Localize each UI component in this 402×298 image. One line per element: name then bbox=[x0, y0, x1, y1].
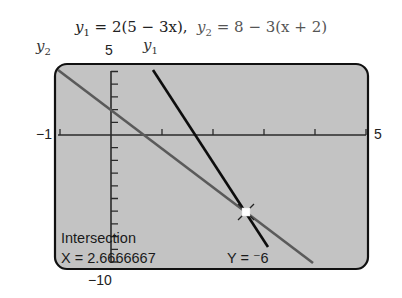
y-readout: Y = ⁻6 bbox=[227, 250, 269, 266]
x-readout: X = 2.6666667 bbox=[61, 250, 156, 266]
intersection-mode-label: Intersection bbox=[61, 230, 136, 246]
